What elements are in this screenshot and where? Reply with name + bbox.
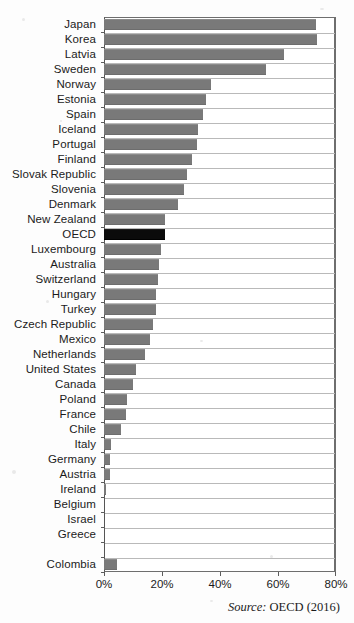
bar-oecd (104, 229, 165, 240)
bar-iceland (104, 124, 198, 135)
x-axis-tick (335, 572, 336, 576)
y-axis-label-latvia: Latvia (65, 48, 96, 61)
bar-new-zealand (104, 214, 165, 225)
x-axis-tick (278, 572, 279, 576)
bar-norway (104, 79, 211, 90)
y-axis-label-united-states: United States (26, 363, 96, 376)
y-axis-label-spain: Spain (66, 108, 96, 121)
y-axis-labels: JapanKoreaLatviaSwedenNorwayEstoniaSpain… (0, 17, 100, 572)
bar-row (104, 62, 336, 77)
bar-row (104, 377, 336, 392)
y-axis-label-netherlands: Netherlands (33, 348, 96, 361)
y-axis-label-new-zealand: New Zealand (27, 213, 96, 226)
bar-canada (104, 379, 133, 390)
bar-row (104, 287, 336, 302)
x-axis-tick (104, 572, 105, 576)
x-axis-tick-label: 0% (96, 578, 113, 590)
y-axis-label-denmark: Denmark (49, 198, 96, 211)
bar-japan (104, 19, 316, 30)
y-axis-label-iceland: Iceland (58, 123, 96, 136)
bar-row (104, 167, 336, 182)
bar-row (104, 92, 336, 107)
bar-colombia (104, 559, 117, 570)
bar-slovenia (104, 184, 184, 195)
y-axis-label-norway: Norway (56, 78, 96, 91)
y-axis-label-australia: Australia (50, 258, 96, 271)
bar-germany (104, 454, 110, 465)
bar-chile (104, 424, 121, 435)
bar-united-states (104, 364, 136, 375)
y-axis-label-turkey: Turkey (61, 303, 96, 316)
x-axis: 0%20%40%60%80% (104, 572, 336, 602)
y-axis-label-germany: Germany (48, 453, 96, 466)
y-axis-label-portugal: Portugal (52, 138, 96, 151)
bar-korea (104, 34, 317, 45)
y-axis-label-austria: Austria (60, 468, 97, 481)
y-axis-label-italy: Italy (74, 438, 96, 451)
bar-row (104, 227, 336, 242)
bar-mexico (104, 334, 150, 345)
y-axis-label-switzerland: Switzerland (35, 273, 96, 286)
bar-ireland (104, 484, 106, 495)
x-axis-tick-label: 60% (266, 578, 289, 590)
x-axis-tick-label: 20% (150, 578, 173, 590)
bar-slovak-republic (104, 169, 187, 180)
x-axis-tick-label: 80% (324, 578, 347, 590)
y-axis-label-slovak-republic: Slovak Republic (12, 168, 96, 181)
bar-row (104, 452, 336, 467)
bar-row (104, 77, 336, 92)
bar-luxembourg (104, 244, 161, 255)
bar-sweden (104, 64, 266, 75)
y-axis-label-colombia: Colombia (47, 558, 96, 571)
bar-row (104, 332, 336, 347)
x-axis-tick-label: 40% (208, 578, 231, 590)
x-axis-tick (220, 572, 221, 576)
bar-row (104, 302, 336, 317)
bar-row (104, 557, 336, 572)
bar-row (104, 317, 336, 332)
source-note: Source: OECD (2016) (228, 600, 340, 615)
y-axis-label-finland: Finland (58, 153, 96, 166)
bar-portugal (104, 139, 197, 150)
x-axis-tick (162, 572, 163, 576)
y-axis-label-israel: Israel (67, 513, 96, 526)
bar-latvia (104, 49, 284, 60)
y-axis-label-oecd: OECD (62, 228, 96, 241)
bar-czech-republic (104, 319, 153, 330)
y-axis-label-greece: Greece (58, 528, 96, 541)
bar-row (104, 107, 336, 122)
y-axis-label-mexico: Mexico (59, 333, 96, 346)
y-axis-label-poland: Poland (60, 393, 96, 406)
y-axis-label-japan: Japan (64, 18, 96, 31)
y-axis-label-chile: Chile (69, 423, 96, 436)
bar-row (104, 122, 336, 137)
bar-row (104, 152, 336, 167)
bar-row (104, 137, 336, 152)
bar-row (104, 497, 336, 512)
bar-row (104, 197, 336, 212)
y-axis-label-luxembourg: Luxembourg (31, 243, 96, 256)
bar-row (104, 347, 336, 362)
bar-row (104, 527, 336, 542)
bar-italy (104, 439, 111, 450)
bar-row (104, 542, 336, 557)
scan-artifact (320, 8, 324, 10)
bar-row (104, 212, 336, 227)
bar-row (104, 182, 336, 197)
bar-row (104, 407, 336, 422)
y-axis-label-slovenia: Slovenia (51, 183, 96, 196)
bar-row (104, 362, 336, 377)
bar-spain (104, 109, 203, 120)
bar-hungary (104, 289, 156, 300)
bar-denmark (104, 199, 178, 210)
bar-row (104, 242, 336, 257)
y-axis-label-hungary: Hungary (52, 288, 96, 301)
bar-row (104, 257, 336, 272)
y-axis-label-estonia: Estonia (57, 93, 96, 106)
y-axis-label-canada: Canada (55, 378, 96, 391)
bar-row (104, 437, 336, 452)
source-label: Source: (228, 600, 266, 614)
bar-row (104, 482, 336, 497)
bar-row (104, 47, 336, 62)
bar-row (104, 17, 336, 32)
